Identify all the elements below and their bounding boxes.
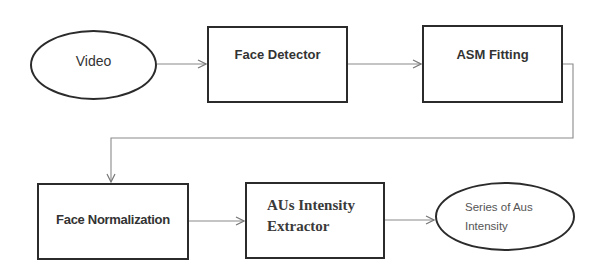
node-aus-intensity-extractor: AUs Intensity Extractor (245, 182, 385, 259)
node-face-detector: Face Detector (207, 26, 348, 103)
node-series-label-line2: Intensity (465, 217, 508, 236)
node-face-normalization: Face Normalization (37, 183, 189, 260)
node-aus-extractor-label-line2: Extractor (267, 216, 329, 237)
node-asm-fitting: ASM Fitting (422, 25, 563, 103)
node-video-label: Video (76, 53, 112, 69)
node-face-detector-label: Face Detector (235, 47, 321, 62)
node-series-label-line1: Series of Aus (465, 198, 533, 217)
node-video: Video (30, 30, 157, 100)
node-face-normalization-label: Face Normalization (56, 212, 170, 227)
node-aus-extractor-label-line1: AUs Intensity (267, 195, 355, 216)
node-series-of-aus-intensity: Series of Aus Intensity (435, 182, 575, 251)
node-asm-fitting-label: ASM Fitting (456, 47, 528, 62)
flowchart-diagram: Video Face Detector ASM Fitting Face Nor… (0, 0, 607, 279)
